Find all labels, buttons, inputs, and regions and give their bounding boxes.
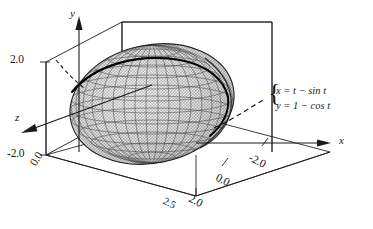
y-tick-neg2: -2.0 bbox=[7, 148, 24, 160]
x-axis bbox=[196, 139, 331, 146]
ellipsoid-3d-figure bbox=[0, 0, 373, 229]
y-axis-arrowhead bbox=[75, 16, 82, 30]
z-axis-arrowhead bbox=[21, 124, 38, 133]
y-tick-2: 2.0 bbox=[10, 54, 24, 66]
ellipsoid-surface bbox=[59, 29, 250, 179]
parametric-equations-callout: x = t − sin t y = 1 − cos t bbox=[276, 83, 330, 113]
equation-x: x = t − sin t bbox=[276, 83, 330, 98]
z-axis-label: z bbox=[15, 112, 19, 123]
y-axis-label: y bbox=[70, 8, 75, 19]
equation-y: y = 1 − cos t bbox=[276, 98, 330, 113]
x-axis-arrowhead bbox=[317, 139, 331, 146]
x-axis-label: x bbox=[339, 135, 344, 146]
